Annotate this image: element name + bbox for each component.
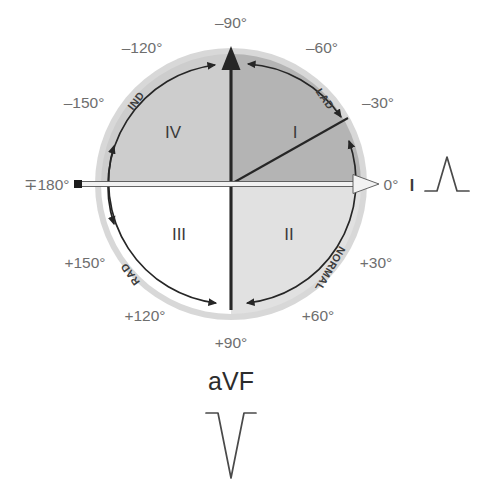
quadrant-label-I: I <box>293 123 298 142</box>
degree-label-plus-90: +90° <box>215 334 248 351</box>
figure-canvas: ‒90° ‒120° ‒60° ‒150° ‒30° ∓180° 0° +150… <box>0 0 479 494</box>
degree-label-minus-120: ‒120° <box>122 39 163 56</box>
lead-aVF-label: aVF <box>208 367 254 395</box>
degree-label-plus-60: +60° <box>302 307 335 324</box>
degree-label-plus-120: +120° <box>124 307 165 324</box>
axis-diagram: ‒90° ‒120° ‒60° ‒150° ‒30° ∓180° 0° +150… <box>0 0 479 494</box>
quadrant-label-III: III <box>172 225 186 244</box>
lead-I-annotation: I <box>410 157 469 194</box>
degree-label-minus-60: ‒60° <box>306 39 338 56</box>
lead-aVF-qrs-trace <box>206 413 256 478</box>
quadrant-label-II: II <box>284 225 293 244</box>
degree-label-minus-30: ‒30° <box>362 94 394 111</box>
degree-label-minus-90: ‒90° <box>215 14 247 31</box>
degree-label-zero: 0° <box>384 176 399 193</box>
quadrant-label-IV: IV <box>165 123 182 142</box>
degree-label-plus-minus-180: ∓180° <box>24 176 69 193</box>
lead-I-axis-endcap <box>74 180 82 188</box>
lead-I-label: I <box>410 177 414 194</box>
degree-label-plus-30: +30° <box>360 254 393 271</box>
degree-label-plus-150: +150° <box>64 254 105 271</box>
lead-aVF-annotation: aVF <box>206 367 256 478</box>
lead-I-qrs-trace <box>425 157 469 191</box>
degree-label-minus-150: ‒150° <box>64 94 105 111</box>
